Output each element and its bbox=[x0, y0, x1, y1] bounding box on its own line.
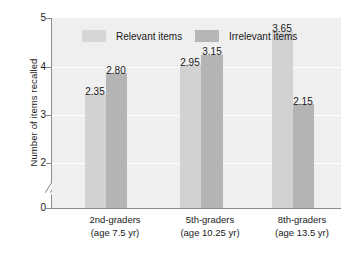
bar-irrelevant-5th-graders[interactable] bbox=[201, 55, 223, 208]
x-category-sub-8th-graders: (age 13.5 yr) bbox=[242, 227, 360, 240]
bar-relevant-8th-graders[interactable] bbox=[272, 31, 293, 208]
y-tick-label-5: 5 bbox=[22, 13, 46, 23]
y-tick-label-0: 0 bbox=[22, 203, 46, 213]
plot-area: 2.35 2.80 2.95 3.15 3.65 2.15 Relevant i… bbox=[52, 18, 341, 208]
legend-swatch-relevant-icon bbox=[82, 30, 106, 42]
legend-label-relevant: Relevant items bbox=[116, 31, 182, 42]
legend-entry-irrelevant[interactable]: Irrelevant items bbox=[195, 30, 297, 42]
bar-relevant-2nd-graders[interactable] bbox=[85, 94, 106, 208]
x-category-name-2nd-graders: 2nd-graders bbox=[89, 214, 140, 225]
bar-value-irrelevant-8th-graders: 2.15 bbox=[278, 97, 328, 107]
legend-swatch-irrelevant-icon bbox=[195, 30, 219, 42]
bar-irrelevant-8th-graders[interactable] bbox=[293, 104, 314, 208]
bar-irrelevant-2nd-graders[interactable] bbox=[106, 73, 127, 208]
x-axis-line bbox=[51, 208, 341, 209]
legend-entry-relevant[interactable]: Relevant items bbox=[82, 30, 182, 42]
bar-relevant-5th-graders[interactable] bbox=[180, 65, 201, 208]
y-tick-label-3: 3 bbox=[22, 110, 46, 120]
x-category-name-5th-graders: 5th-graders bbox=[186, 214, 235, 225]
x-category-name-8th-graders: 8th-graders bbox=[278, 214, 327, 225]
legend-label-irrelevant: Irrelevant items bbox=[229, 31, 297, 42]
y-tick-label-4: 4 bbox=[22, 62, 46, 72]
chart-figure: Number of items recalled 5 4 3 2 0 2.35 … bbox=[0, 0, 360, 253]
bar-value-irrelevant-2nd-graders: 2.80 bbox=[91, 66, 141, 76]
bar-value-irrelevant-5th-graders: 3.15 bbox=[187, 47, 237, 57]
x-category-label-8th-graders: 8th-graders (age 13.5 yr) bbox=[242, 214, 360, 239]
y-tick-label-2: 2 bbox=[22, 158, 46, 168]
